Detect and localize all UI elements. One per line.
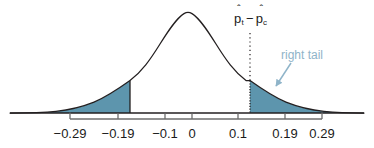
- subscript-control: c: [263, 18, 267, 27]
- right-tail-callout-label: right tail: [281, 49, 323, 61]
- minus-sign: −: [246, 11, 254, 26]
- axis-tick-label--0-1: −0.1: [152, 126, 178, 141]
- hat-accent-control: ˆ: [256, 4, 268, 15]
- axis-tick-label-0-1: 0.1: [229, 126, 247, 141]
- hat-accent-treatment: ˆ: [234, 4, 244, 15]
- normal-curve: [10, 12, 364, 113]
- axis-tick-label-0-19: 0.19: [272, 126, 297, 141]
- subscript-treatment: t: [241, 18, 243, 27]
- axis-tick-label-0: 0: [188, 126, 195, 141]
- p-hat-control: ˆpc: [256, 12, 268, 25]
- right-tail-callout-arrow: [276, 63, 291, 86]
- p-hat-treatment: ˆpt: [234, 12, 244, 25]
- axis-tick-label-0-29: 0.29: [309, 126, 334, 141]
- left-tail-shaded-region: [10, 81, 130, 113]
- statistic-label: ˆpt−ˆpc: [234, 12, 267, 25]
- normal-distribution-figure: ˆpt−ˆpc right tail −0.29 −0.19 −0.1 0 0.…: [0, 0, 374, 148]
- axis-tick-label--0-29: −0.29: [54, 126, 87, 141]
- axis-tick-label--0-19: −0.19: [102, 126, 135, 141]
